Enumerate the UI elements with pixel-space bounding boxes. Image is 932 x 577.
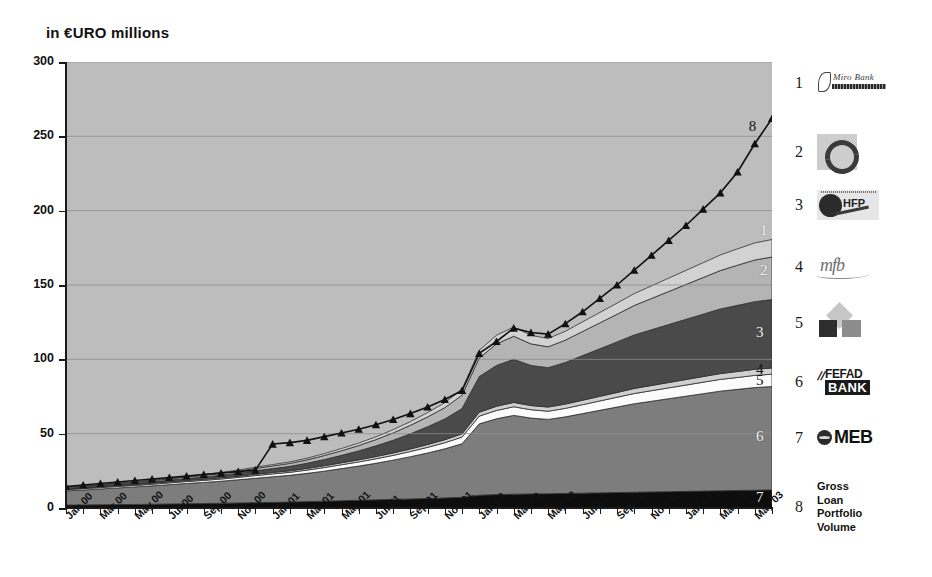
y-tick-label: 100 — [14, 351, 54, 365]
legend-item-6[interactable]: 6 // FEFAD BANK — [795, 367, 932, 397]
legend-number-7: 7 — [795, 429, 817, 447]
y-tick-mark — [59, 359, 66, 361]
legend-item-4[interactable]: 4 mfb — [795, 254, 932, 280]
underline-swoosh-icon — [817, 271, 869, 279]
y-tick-label: 0 — [14, 500, 54, 514]
legend-number-4: 4 — [795, 258, 817, 276]
legend: 1 Miro Bank 2 3 HFP 4 — [795, 62, 932, 522]
logo-rule — [821, 191, 877, 193]
band-label-7: 7 — [756, 489, 764, 506]
square-left-icon — [819, 320, 837, 337]
y-tick-label: 50 — [14, 426, 54, 440]
leaf-icon — [818, 72, 831, 92]
chart-canvas — [66, 62, 772, 508]
legend-item-1[interactable]: 1 Miro Bank — [795, 72, 932, 94]
legend-label-8: GrossLoanPortfolioVolume — [817, 480, 901, 534]
fefad-bank-logo: // FEFAD BANK — [817, 367, 887, 397]
y-tick-mark — [59, 136, 66, 138]
band-label-2: 2 — [760, 262, 768, 279]
legend-logo-text-7: MEB — [834, 427, 873, 448]
swirl-logo — [817, 134, 857, 170]
legend-item-2[interactable]: 2 — [795, 134, 932, 170]
band-label-6: 6 — [756, 428, 764, 445]
legend-number-3: 3 — [795, 196, 817, 214]
hfp-logo: HFP — [817, 190, 879, 220]
legend-logo-text-3: HFP — [843, 197, 865, 209]
band-label-1: 1 — [760, 222, 768, 239]
globe-icon — [817, 430, 832, 445]
y-tick-mark — [59, 434, 66, 436]
diamond-squares-logo — [817, 306, 865, 340]
y-tick-label: 200 — [14, 203, 54, 217]
legend-number-6: 6 — [795, 373, 817, 391]
plot-area — [66, 62, 772, 508]
y-tick-label: 300 — [14, 54, 54, 68]
y-tick-mark — [59, 62, 66, 64]
legend-logo-text-8: GrossLoanPortfolioVolume — [817, 480, 862, 533]
band-label-5: 5 — [756, 372, 764, 389]
swirl-icon-mirror — [818, 133, 865, 180]
legend-logo-text-1: Miro Bank — [833, 72, 874, 82]
legend-item-5[interactable]: 5 — [795, 306, 932, 340]
y-tick-label: 250 — [14, 128, 54, 142]
square-right-icon — [842, 320, 861, 337]
legend-logo-text-6-top: FEFAD — [825, 367, 862, 381]
band-label-3: 3 — [756, 324, 764, 341]
legend-number-8: 8 — [795, 498, 817, 516]
meb-logo: MEB — [817, 427, 901, 449]
miro-bank-logo: Miro Bank — [817, 72, 889, 94]
y-tick-mark — [59, 211, 66, 213]
legend-number-5: 5 — [795, 314, 817, 332]
legend-item-8[interactable]: 8 GrossLoanPortfolioVolume — [795, 480, 932, 534]
legend-number-2: 2 — [795, 143, 817, 161]
y-tick-label: 150 — [14, 277, 54, 291]
legend-logo-text-6-bottom: BANK — [825, 380, 870, 395]
logo-underline — [832, 84, 886, 89]
legend-item-7[interactable]: 7 MEB — [795, 427, 932, 449]
y-tick-mark — [59, 285, 66, 287]
mfb-logo: mfb — [817, 254, 873, 280]
page-title: in €URO millions — [46, 24, 169, 41]
legend-item-3[interactable]: 3 HFP — [795, 190, 932, 220]
chart-page: in €URO millions 050100150200250300 Jan … — [0, 0, 932, 577]
legend-number-1: 1 — [795, 74, 817, 92]
line-label-8: 8 — [749, 118, 757, 135]
